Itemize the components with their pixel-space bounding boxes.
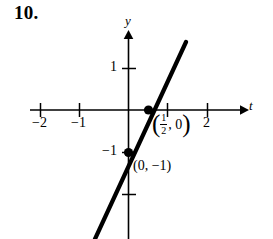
fraction-numerator: 1 — [160, 113, 167, 123]
y-axis-label: y — [125, 14, 131, 27]
x-tick-label-2: 2 — [203, 116, 210, 130]
y-axis-arrowhead — [124, 30, 134, 39]
fraction-one-half: 1 2 — [160, 113, 167, 136]
point-label-t-intercept: ( 1 2 , 0 ) — [152, 113, 191, 136]
y-tick-label-minus-1: −1 — [102, 144, 117, 158]
point-label-y-intercept: (0, −1) — [133, 158, 171, 173]
annotation-close-paren: ) — [182, 113, 190, 135]
x-axis-arrowhead — [240, 105, 249, 115]
t-axis-label: t — [249, 99, 253, 112]
point-y-intercept — [124, 148, 133, 157]
annotation-open-paren: ( — [152, 113, 160, 135]
x-tick-label-minus-2: −2 — [32, 116, 47, 130]
annotation-second-coordinate: , 0 — [168, 117, 182, 132]
plot-line — [95, 42, 186, 239]
x-tick-label-minus-1: −1 — [71, 116, 86, 130]
fraction-denominator: 2 — [160, 126, 167, 136]
figure-root: 10. y t −2 −1 2 1 −1 (0, −1) ( 1 — [0, 0, 273, 239]
y-tick-label-1: 1 — [110, 60, 117, 74]
